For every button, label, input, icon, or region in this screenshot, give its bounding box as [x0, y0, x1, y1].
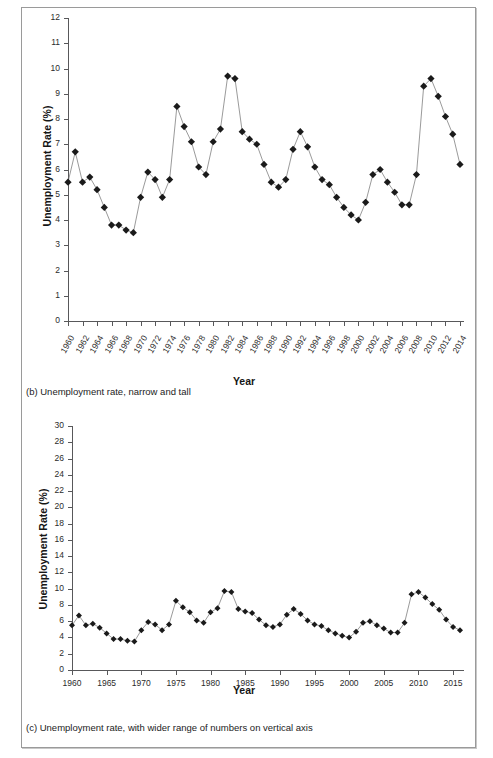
plot-b-data-point [413, 171, 420, 178]
plot-b-data-point [398, 201, 405, 208]
plot-c-data-point [381, 626, 387, 632]
plot-c-data-point [374, 622, 380, 628]
chart-c-plot-area: 0246810121416182022242628301960196519701… [72, 426, 460, 670]
plot-c-data-point [402, 620, 408, 626]
plot-b-data-series [68, 18, 468, 329]
plot-c-y-tick-label: 24 [32, 470, 64, 479]
plot-c-data-point [221, 588, 227, 594]
plot-c-y-tick-label: 22 [32, 486, 64, 495]
plot-c-data-point [312, 621, 318, 627]
plot-b-y-tick-label: 5 [28, 190, 60, 199]
plot-c-data-point [208, 609, 214, 615]
plot-b-data-point [260, 161, 267, 168]
plot-b-y-tick-label: 2 [28, 266, 60, 275]
caption-panel-c: (c) Unemployment rate, with wider range … [26, 722, 313, 733]
chart-panel-b: Unemployment Rate (%) Year 0123456789101… [24, 10, 473, 400]
plot-b-data-point [231, 75, 238, 82]
plot-b-data-point [188, 138, 195, 145]
plot-b-data-point [435, 93, 442, 100]
plot-c-y-tick-label: 16 [32, 535, 64, 544]
plot-b-data-point [362, 199, 369, 206]
plot-c-data-point [367, 618, 373, 624]
plot-b-data-point [333, 194, 340, 201]
plot-c-data-point [332, 630, 338, 636]
plot-b-data-point [406, 201, 413, 208]
plot-c-y-tick-label: 28 [32, 437, 64, 446]
plot-c-data-point [201, 620, 207, 626]
plot-b-y-tick-label: 4 [28, 215, 60, 224]
plot-b-data-point [122, 227, 129, 234]
plot-b-data-point [369, 171, 376, 178]
plot-c-y-tick-label: 6 [32, 616, 64, 625]
plot-c-y-tick-label: 26 [32, 454, 64, 463]
plot-c-data-point [131, 639, 137, 645]
plot-b-data-point [217, 126, 224, 133]
plot-c-data-point [69, 622, 75, 628]
plot-c-data-point [409, 591, 415, 597]
plot-c-y-tick-label: 4 [32, 632, 64, 641]
plot-b-data-point [159, 194, 166, 201]
plot-b-data-point [137, 194, 144, 201]
plot-b-data-point [384, 179, 391, 186]
plot-b-data-point [224, 72, 231, 79]
plot-c-data-point [360, 620, 366, 626]
plot-c-data-point [325, 627, 331, 633]
plot-c-y-tick-label: 20 [32, 502, 64, 511]
plot-c-data-point [124, 638, 130, 644]
plot-c-y-tick-label: 8 [32, 600, 64, 609]
plot-b-data-point [377, 166, 384, 173]
chart-panel-c: Unemployment Rate (%) Year 0246810121416… [24, 418, 473, 718]
plot-b-data-point [72, 148, 79, 155]
plot-b-y-tick-label: 8 [28, 114, 60, 123]
plot-b-data-point [181, 123, 188, 130]
plot-b-connector-line [68, 76, 460, 233]
plot-c-y-tick-label: 14 [32, 551, 64, 560]
plot-b-y-tick-label: 11 [28, 38, 60, 47]
plot-b-data-point [318, 176, 325, 183]
plot-c-data-point [270, 624, 276, 630]
plot-c-y-tick-label: 2 [32, 649, 64, 658]
plot-b-data-point [253, 141, 260, 148]
plot-c-x-tick-label: 2015 [433, 678, 473, 688]
plot-b-data-point [391, 189, 398, 196]
plot-c-data-point [242, 608, 248, 614]
plot-b-data-point [79, 179, 86, 186]
plot-b-y-tick-label: 10 [28, 64, 60, 73]
plot-b-data-point [86, 173, 93, 180]
plot-c-y-tick-label: 18 [32, 519, 64, 528]
plot-b-data-point [64, 179, 71, 186]
plot-b-data-point [108, 221, 115, 228]
plot-c-data-point [215, 605, 221, 611]
plot-b-data-point [166, 176, 173, 183]
plot-b-y-tick-label: 1 [28, 291, 60, 300]
plot-b-data-point [297, 128, 304, 135]
plot-b-data-point [326, 181, 333, 188]
plot-b-data-point [130, 229, 137, 236]
plot-b-data-point [210, 138, 217, 145]
plot-b-data-point [449, 131, 456, 138]
plot-b-data-point [93, 186, 100, 193]
plot-c-y-tick-label: 30 [32, 421, 64, 430]
caption-panel-b: (b) Unemployment rate, narrow and tall [26, 386, 191, 397]
plot-c-y-tick-label: 0 [32, 665, 64, 674]
plot-c-data-point [277, 621, 283, 627]
plot-c-data-point [457, 627, 463, 633]
plot-b-data-point [173, 103, 180, 110]
plot-b-data-point [311, 163, 318, 170]
plot-b-data-point [289, 146, 296, 153]
plot-b-data-point [442, 113, 449, 120]
plot-c-y-tick-label: 10 [32, 584, 64, 593]
plot-b-data-point [456, 161, 463, 168]
plot-c-data-point [388, 630, 394, 636]
plot-b-y-tick-label: 7 [28, 139, 60, 148]
plot-c-y-tick-label: 12 [32, 567, 64, 576]
plot-b-y-tick-label: 12 [28, 13, 60, 22]
plot-c-data-point [76, 613, 82, 619]
plot-c-data-series [72, 426, 468, 678]
plot-c-data-point [339, 633, 345, 639]
chart-b-plot-area: 0123456789101112196019621964196619681970… [68, 18, 460, 321]
plot-b-data-point [304, 143, 311, 150]
plot-c-data-point [235, 606, 241, 612]
plot-c-data-point [90, 621, 96, 627]
plot-c-data-point [395, 630, 401, 636]
